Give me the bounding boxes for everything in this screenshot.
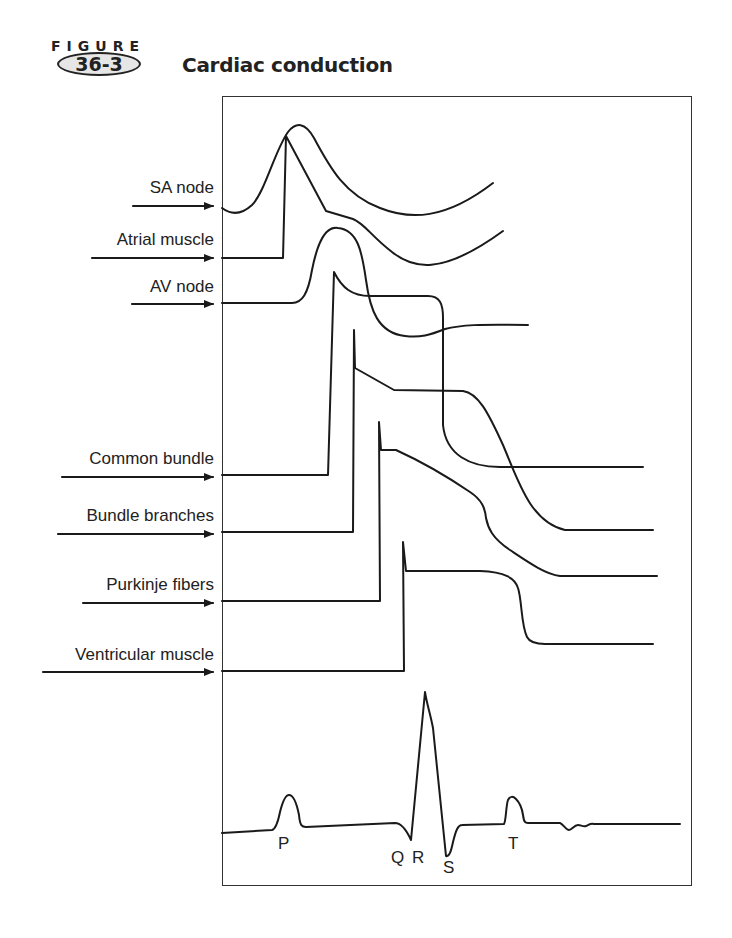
conduction-traces <box>0 0 732 938</box>
ecg-trace <box>222 692 680 856</box>
trace-ventricular-muscle <box>222 542 653 671</box>
arrow-icons <box>43 206 213 672</box>
ecg-label-t: T <box>508 834 518 854</box>
ecg-label-q: Q <box>391 848 404 868</box>
trace-sa-node <box>222 125 493 215</box>
ecg-label-s: S <box>443 858 454 878</box>
trace-bundle-branches <box>222 330 653 532</box>
trace-purkinje-fibers <box>222 422 657 601</box>
ecg-label-p: P <box>278 834 289 854</box>
ecg-label-r: R <box>412 848 424 868</box>
